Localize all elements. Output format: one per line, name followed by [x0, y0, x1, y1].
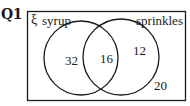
universal-set-symbol: ξ — [31, 13, 37, 27]
sprinkles-circle — [83, 19, 159, 95]
region-sprinkles-only: 12 — [133, 44, 146, 57]
region-syrup-only: 32 — [65, 54, 78, 67]
region-intersection: 16 — [100, 52, 113, 65]
set-label-syrup: syrup — [42, 14, 71, 27]
region-neither: 20 — [154, 79, 167, 92]
set-label-sprinkles: sprinkles — [136, 14, 183, 27]
